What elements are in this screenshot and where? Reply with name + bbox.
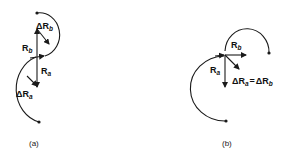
delta-rb-vector-arrow	[37, 29, 49, 44]
label-ra-a: Ra	[41, 66, 52, 77]
label-rb-b: Rb	[231, 40, 242, 51]
endpoint-dot-top	[35, 11, 38, 14]
endpoint-dot-bottom	[37, 120, 40, 123]
panel-a: ΔRb Rb Ra ΔRa (a)	[16, 11, 60, 148]
endpoint-dot-bottom	[224, 119, 227, 122]
label-delta-equation-b: ΔRa=ΔRb	[232, 76, 273, 87]
caption-a: (a)	[29, 139, 39, 148]
label-rb-a: Rb	[22, 43, 33, 54]
figure-canvas: ΔRb Rb Ra ΔRa (a) Rb Ra ΔRa=ΔRb (b)	[0, 0, 281, 155]
endpoint-dot-right	[267, 51, 270, 54]
label-delta-rb-a: ΔRb	[36, 21, 53, 32]
delta-vector-arrow	[225, 55, 239, 69]
arc-a	[190, 56, 226, 121]
panel-b: Rb Ra ΔRa=ΔRb (b)	[190, 29, 272, 148]
delta-ra-vector-arrow	[27, 76, 37, 86]
arc-b	[37, 13, 60, 56]
label-delta-ra-a: ΔRa	[16, 89, 33, 100]
label-ra-b: Ra	[210, 65, 221, 76]
caption-b: (b)	[222, 139, 232, 148]
